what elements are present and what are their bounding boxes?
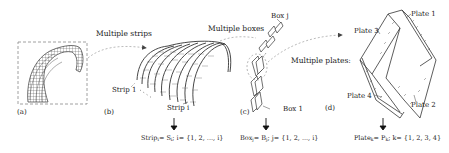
box-last-label: Box j bbox=[271, 12, 289, 20]
plate-formula: Platek= Pk; k= {1, 2, 3, 4} bbox=[354, 134, 441, 144]
plate-3-label: Plate 3 bbox=[354, 27, 379, 35]
down-arrows bbox=[171, 118, 386, 130]
diagram-graphics bbox=[0, 0, 449, 153]
diagram-canvas: (a) (b) (c) (d) Multiple strips Multiple… bbox=[0, 0, 449, 153]
transition-multiple-boxes: Multiple boxes bbox=[208, 25, 264, 33]
transition-multiple-plates: Multiple plates: bbox=[291, 57, 351, 65]
plate-1-label: Plate 1 bbox=[411, 10, 436, 18]
strip-first-label: Strip 1 bbox=[112, 86, 136, 94]
arrow-a-to-b bbox=[88, 46, 146, 58]
box-first-label: Box 1 bbox=[283, 105, 303, 113]
strip-last-label: Strip i bbox=[167, 104, 189, 112]
panel-d-label: (d) bbox=[325, 104, 335, 112]
panel-a-shell bbox=[18, 42, 87, 104]
panel-a-label: (a) bbox=[17, 108, 27, 116]
strip-formula: Stripi= Si; i= {1, 2, ..., i} bbox=[141, 134, 223, 144]
plate-2-label: Plate 2 bbox=[411, 101, 436, 109]
panel-c-label: (c) bbox=[240, 108, 249, 116]
transition-multiple-strips: Multiple strips bbox=[96, 30, 152, 38]
arrow-b-to-c bbox=[220, 37, 256, 41]
panel-b-label: (b) bbox=[104, 108, 114, 116]
plate-4-label: Plate 4 bbox=[347, 92, 372, 100]
box-formula: Boxj= Bj; j= {1, 2, ..., i} bbox=[240, 134, 318, 144]
panel-b-strips bbox=[137, 41, 231, 106]
